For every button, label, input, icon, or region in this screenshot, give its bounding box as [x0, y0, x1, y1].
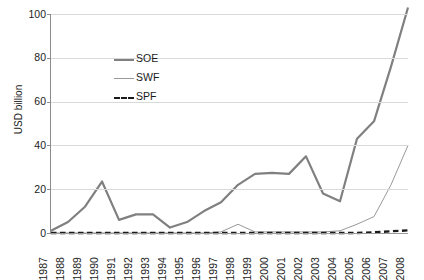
x-axis-tick-label: 1998 [224, 257, 235, 280]
chart-container: USD billion 020406080100 198719881989199… [0, 0, 424, 280]
y-axis-tickmark [47, 102, 51, 103]
y-axis-tick-label: 80 [18, 52, 46, 63]
x-axis-tick-label: 2005 [343, 257, 354, 280]
line-swatch-dashed-black [113, 92, 135, 102]
x-axis-tick-label: 1987 [37, 257, 48, 280]
legend-label: SWF [135, 72, 159, 83]
x-axis-tick-label: 1999 [241, 257, 252, 280]
legend-label: SOE [135, 53, 158, 64]
x-axis-tick-label: 2003 [309, 257, 320, 280]
x-axis-tick-label: 2002 [292, 257, 303, 280]
gridline [51, 14, 408, 15]
x-axis-tick-label: 1996 [190, 257, 201, 280]
gridline [51, 189, 408, 190]
x-axis-tick-label: 1990 [88, 257, 99, 280]
x-axis-tick-labels: 1987198819891990199119921993199419951996… [51, 236, 408, 280]
y-axis-tickmark [47, 233, 51, 234]
x-axis-tick-label: 1989 [71, 257, 82, 280]
legend-item-spf[interactable]: SPF [113, 87, 203, 106]
x-axis-tick-label: 2006 [360, 257, 371, 280]
y-axis-tickmark [47, 189, 51, 190]
x-axis-tick-label: 2004 [326, 257, 337, 280]
y-axis-tick-label: 0 [18, 228, 46, 239]
y-axis-tick-label: 40 [18, 140, 46, 151]
y-axis-tick-label: 60 [18, 96, 46, 107]
line-swatch-thin-gray [113, 73, 135, 83]
series-line-soe [51, 7, 408, 230]
y-axis-tickmark [47, 58, 51, 59]
gridline [51, 145, 408, 146]
x-axis-tick-label: 1993 [139, 257, 150, 280]
y-axis-tick-label: 100 [18, 9, 46, 20]
x-axis-tick-label: 1992 [122, 257, 133, 280]
x-axis-tick-label: 2007 [377, 257, 388, 280]
x-axis-baseline [51, 233, 408, 234]
y-axis-tickmark [47, 145, 51, 146]
x-axis-tick-label: 2008 [394, 257, 405, 280]
gridline [51, 102, 408, 103]
x-axis-tick-label: 1994 [156, 257, 167, 280]
x-axis-tick-label: 1988 [54, 257, 65, 280]
plot-area [51, 14, 408, 233]
x-axis-tick-label: 1991 [105, 257, 116, 280]
x-axis-tick-label: 1995 [173, 257, 184, 280]
line-swatch-thick-gray [113, 54, 135, 64]
legend-item-swf[interactable]: SWF [113, 68, 203, 87]
gridline [51, 58, 408, 59]
y-axis-tick-label: 20 [18, 184, 46, 195]
x-axis-tick-label: 2000 [258, 257, 269, 280]
chart-legend: SOESWFSPF [113, 49, 203, 106]
x-axis-tick-label: 2001 [275, 257, 286, 280]
legend-label: SPF [135, 91, 156, 102]
y-axis-tick-labels: 020406080100 [18, 0, 46, 280]
x-axis-tick-label: 1997 [207, 257, 218, 280]
y-axis-tickmark [47, 14, 51, 15]
series-lines [51, 14, 408, 233]
legend-item-soe[interactable]: SOE [113, 49, 203, 68]
